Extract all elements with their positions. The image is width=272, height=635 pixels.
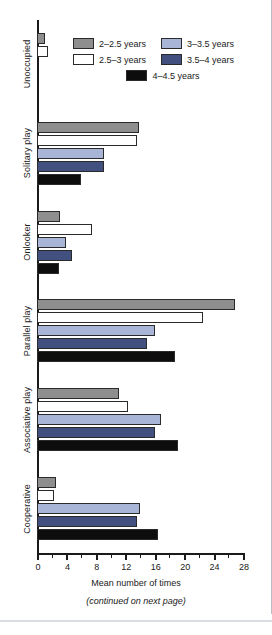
- bar: [37, 33, 45, 44]
- category-label: Cooperative: [22, 449, 32, 569]
- bar: [37, 414, 161, 425]
- bar: [37, 503, 140, 514]
- bar: [37, 516, 137, 527]
- bar: [37, 174, 81, 185]
- x-tick-label: 8: [85, 562, 109, 572]
- bar: [37, 388, 119, 399]
- bar-row: [37, 135, 243, 146]
- bar-row: [37, 325, 243, 336]
- bar: [37, 46, 48, 57]
- legend-label: 2.5–3 years: [99, 55, 146, 65]
- x-tick-minor: [228, 553, 229, 558]
- bar: [37, 440, 178, 451]
- bar-row: [37, 122, 243, 133]
- x-tick-major: [66, 553, 68, 560]
- bar-row: [37, 211, 243, 222]
- bar-row: [37, 161, 243, 172]
- bar-row: [37, 263, 243, 274]
- bar-group: [37, 477, 243, 542]
- legend-item: 3–3.5 years: [161, 38, 249, 49]
- bar-group: [37, 388, 243, 453]
- bar: [37, 263, 59, 274]
- x-tick-label: 16: [144, 562, 168, 572]
- bar: [37, 237, 66, 248]
- bar-row: [37, 351, 243, 362]
- bar: [37, 211, 60, 222]
- x-tick-label: 20: [173, 562, 197, 572]
- x-tick-label: 12: [114, 562, 138, 572]
- bar: [37, 490, 54, 501]
- x-tick-major: [155, 553, 157, 560]
- legend-swatch-light-blue: [161, 38, 182, 49]
- bar-row: [37, 427, 243, 438]
- legend-row: 2.5–3 years 3.5–4 years: [73, 54, 253, 65]
- bar-row: [37, 312, 243, 323]
- bar-row: [37, 503, 243, 514]
- x-tick-major: [184, 553, 186, 560]
- bar: [37, 477, 56, 488]
- bar: [37, 161, 104, 172]
- bar: [37, 122, 139, 133]
- legend-item: 2.5–3 years: [73, 54, 161, 65]
- bar-row: [37, 85, 243, 96]
- legend-swatch-white: [73, 54, 94, 65]
- legend-swatch-gray: [73, 38, 94, 49]
- bar-row: [37, 414, 243, 425]
- x-axis-title: Mean number of times: [0, 578, 272, 588]
- bar-row: [37, 388, 243, 399]
- bar: [37, 135, 137, 146]
- plot-area: [37, 20, 243, 553]
- bar-row: [37, 401, 243, 412]
- x-tick-minor: [199, 553, 200, 558]
- bar-row: [37, 237, 243, 248]
- x-tick-minor: [140, 553, 141, 558]
- bar: [37, 299, 235, 310]
- continued-note: (continued on next page): [0, 596, 272, 606]
- bar-row: [37, 148, 243, 159]
- bar-row: [37, 250, 243, 261]
- legend: 2–2.5 years 3–3.5 years 2.5–3 years 3.5–…: [73, 38, 253, 86]
- x-tick-minor: [111, 553, 112, 558]
- bar: [37, 325, 155, 336]
- x-tick-major: [96, 553, 98, 560]
- legend-swatch-black: [126, 70, 147, 81]
- x-tick-minor: [169, 553, 170, 558]
- bar: [37, 529, 158, 540]
- legend-label: 3–3.5 years: [187, 39, 234, 49]
- figure-panel: 0481216202428 UnoccupiedSolitary playOnl…: [0, 0, 272, 614]
- x-tick-major: [37, 553, 39, 560]
- bar: [37, 224, 92, 235]
- x-tick-minor: [81, 553, 82, 558]
- bar: [37, 312, 203, 323]
- bar: [37, 401, 128, 412]
- bar: [37, 351, 175, 362]
- legend-swatch-dark-blue: [161, 54, 182, 65]
- x-tick-label: 28: [232, 562, 256, 572]
- bar: [37, 338, 147, 349]
- bar: [37, 427, 155, 438]
- bar-row: [37, 338, 243, 349]
- legend-item: 4–4.5 years: [126, 70, 199, 81]
- bar-group: [37, 299, 243, 364]
- bar-row: [37, 299, 243, 310]
- legend-label: 4–4.5 years: [152, 71, 199, 81]
- legend-row: 2–2.5 years 3–3.5 years: [73, 38, 253, 49]
- legend-item: 2–2.5 years: [73, 38, 161, 49]
- page-bottom-rule: [0, 620, 272, 622]
- legend-item: 3.5–4 years: [161, 54, 249, 65]
- legend-label: 2–2.5 years: [99, 39, 146, 49]
- bar-row: [37, 224, 243, 235]
- x-tick-minor: [52, 553, 53, 558]
- bar-row: [37, 477, 243, 488]
- legend-label: 3.5–4 years: [187, 55, 234, 65]
- bar-row: [37, 440, 243, 451]
- bar-row: [37, 174, 243, 185]
- x-tick-label: 24: [203, 562, 227, 572]
- bar-group: [37, 211, 243, 276]
- bar-group: [37, 122, 243, 187]
- x-tick-major: [214, 553, 216, 560]
- bar: [37, 148, 104, 159]
- legend-row: 4–4.5 years: [73, 70, 253, 81]
- bar-row: [37, 490, 243, 501]
- x-tick-major: [125, 553, 127, 560]
